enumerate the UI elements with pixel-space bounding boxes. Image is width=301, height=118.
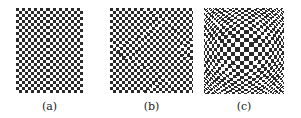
panel-a-checkerboard [16, 8, 83, 93]
checkerboard-radial-distortion-image [204, 8, 284, 94]
checkerboard-regular-image [16, 8, 83, 93]
caption-a: (a) [30, 100, 70, 113]
panel-b-checkerboard [110, 8, 193, 93]
checkerboard-subtle-distortion-image [110, 8, 193, 93]
caption-c: (c) [224, 100, 264, 113]
caption-b: (b) [132, 100, 172, 113]
panel-c-checkerboard [204, 8, 284, 94]
